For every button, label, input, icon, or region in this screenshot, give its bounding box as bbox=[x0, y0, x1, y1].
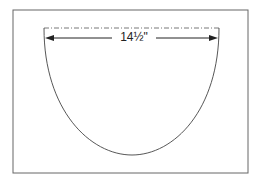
arrow-left-icon bbox=[45, 35, 54, 41]
dimension-label: 14½" bbox=[112, 30, 156, 44]
arrow-right-icon bbox=[209, 35, 218, 41]
pattern-diagram bbox=[0, 0, 258, 186]
semicircle-outline bbox=[44, 28, 219, 155]
